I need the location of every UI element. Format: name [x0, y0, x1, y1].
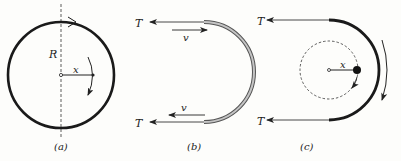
label-x: x	[73, 64, 79, 75]
end-point	[91, 73, 94, 76]
label-v-bottom: v	[181, 102, 187, 113]
label-T-top: T	[257, 15, 266, 28]
rope-guide-inner	[204, 22, 254, 122]
orbit-arrow-icon	[352, 77, 357, 88]
label-x: x	[340, 59, 346, 70]
label-T-bottom: T	[135, 117, 144, 130]
label-T-bottom: T	[257, 115, 266, 128]
panel-c: T T x (c)	[257, 15, 387, 152]
point-mass	[353, 66, 361, 74]
panel-a: R x (a)	[8, 4, 114, 152]
center-point	[59, 73, 62, 76]
figure-canvas: R x (a) T T v v (b) T T x (c)	[0, 0, 401, 161]
caption-a: (a)	[54, 141, 68, 152]
panel-b: T T v v (b)	[135, 17, 254, 152]
label-T-top: T	[135, 17, 144, 30]
physics-figure: R x (a) T T v v (b) T T x (c)	[0, 0, 401, 161]
caption-b: (b)	[187, 141, 201, 152]
center-point	[328, 69, 331, 72]
rotation-arrow-icon	[382, 40, 387, 100]
rope-guide-outer	[204, 22, 254, 122]
caption-c: (c)	[300, 141, 314, 152]
label-v-top: v	[183, 32, 189, 43]
label-R: R	[48, 48, 57, 61]
